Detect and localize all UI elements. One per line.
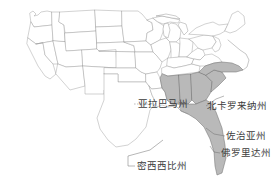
highlighted-states-group <box>160 62 243 175</box>
state-montana <box>59 10 96 33</box>
label-florida[interactable]: 佛罗里达州 <box>221 148 271 158</box>
state-indiana <box>170 42 180 59</box>
state-north-dakota <box>95 10 122 27</box>
us-map-figure: 亚拉巴马州 北卡罗来纳州 佐治亚州 佛罗里达州 密西西比州 <box>0 0 278 185</box>
state-colorado <box>82 49 117 68</box>
label-mississippi[interactable]: 密西西比州 <box>137 161 187 171</box>
state-new-york <box>189 22 228 36</box>
state-wyoming <box>65 31 97 51</box>
state-south-dakota <box>96 26 124 43</box>
label-north-carolina[interactable]: 北卡罗来纳州 <box>207 101 267 111</box>
label-alabama[interactable]: 亚拉巴马州 <box>138 99 188 109</box>
state-washington <box>30 11 52 27</box>
label-georgia[interactable]: 佐治亚州 <box>226 131 266 141</box>
state-texas <box>97 74 156 147</box>
state-arizona <box>56 64 85 90</box>
state-new-england <box>225 11 245 33</box>
